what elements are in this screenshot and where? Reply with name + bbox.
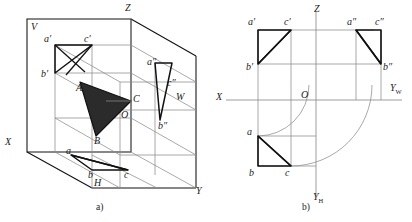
- label-plane-w: W: [176, 92, 184, 102]
- label-axis-x-b: X: [216, 92, 222, 102]
- grid-depth-5: [55, 118, 120, 155]
- label-axis-yw: YW: [390, 83, 402, 96]
- label-b-prime-a: b′: [41, 69, 48, 79]
- triangle-horizontal-projection-b: [258, 136, 291, 166]
- label-a-dprime-a: a″: [147, 57, 156, 67]
- label-origin-a: O: [121, 110, 128, 120]
- caption-panel-a: a): [96, 202, 103, 212]
- label-axis-yw-sub: W: [396, 88, 402, 95]
- label-point-a: A: [76, 83, 82, 93]
- label-c-lower-b: c: [285, 168, 289, 178]
- label-axis-z-b: Z: [314, 4, 320, 14]
- triangle-profile-projection-b: [356, 30, 381, 64]
- label-c-lower-a: c: [124, 170, 128, 180]
- label-a-lower-a: a: [66, 146, 71, 156]
- label-b-prime-b: b′: [246, 62, 253, 72]
- label-c-prime-a: c′: [84, 34, 91, 44]
- grid-depth-8: [131, 152, 196, 188]
- label-b-lower-b: b: [249, 168, 254, 178]
- label-axis-yh-sub: H: [319, 197, 324, 204]
- panel-b-drawing: [206, 0, 412, 222]
- label-b-dprime-a: b″: [158, 121, 167, 131]
- label-point-c: C: [133, 94, 140, 104]
- label-a-dprime-b: a″: [347, 17, 356, 27]
- label-a-prime-b: a′: [248, 17, 255, 27]
- label-c-dprime-a: c″: [167, 78, 176, 88]
- label-point-b: B: [94, 136, 100, 146]
- label-c-prime-b: c′: [284, 17, 291, 27]
- label-axis-yh: YH: [313, 192, 323, 205]
- panel-a-drawing: [0, 0, 206, 222]
- label-plane-v: V: [31, 22, 37, 32]
- label-axis-x-a: X: [5, 137, 11, 147]
- label-a-prime-a: a′: [44, 34, 51, 44]
- label-a-lower-b: a: [247, 127, 252, 137]
- projection-construction-lines: [258, 30, 381, 166]
- label-c-dprime-b: c″: [375, 17, 384, 27]
- label-b-dprime-b: b″: [383, 62, 392, 72]
- label-b-lower-a: b: [88, 170, 93, 180]
- figure-canvas: V Z W X Y H a′ c′ b′ A C B O a″ c″ b″ a …: [0, 0, 412, 222]
- triangle-horizontal-projection: [71, 155, 128, 170]
- label-origin-b: O: [301, 90, 308, 100]
- label-axis-z-a: Z: [125, 3, 131, 13]
- label-plane-h: H: [94, 178, 101, 188]
- triangle-frontal-projection-b: [258, 30, 291, 64]
- label-axis-y-a: Y: [196, 186, 202, 196]
- caption-panel-b: b): [302, 202, 310, 212]
